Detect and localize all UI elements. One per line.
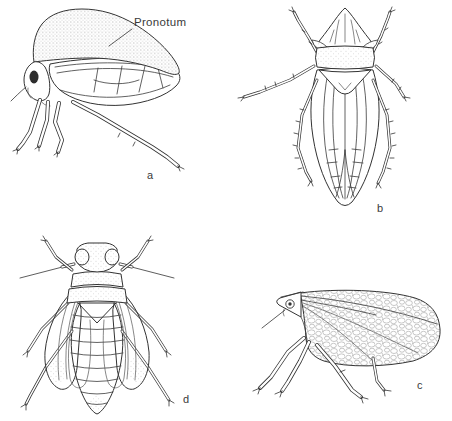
insect-figure-canvas: Pronotum a b c d	[0, 0, 452, 421]
insect-d-illustration	[20, 236, 174, 414]
panel-label-d: d	[183, 394, 189, 405]
insect-b-illustration	[238, 7, 410, 206]
panel-label-b: b	[377, 203, 383, 214]
insect-c-illustration	[253, 290, 440, 403]
insect-a-illustration	[11, 9, 184, 171]
insect-line-art	[0, 0, 452, 421]
pronotum-label: Pronotum	[134, 17, 186, 29]
panel-label-a: a	[147, 170, 153, 181]
panel-label-c: c	[417, 380, 423, 391]
insect-a-eye	[30, 71, 39, 84]
